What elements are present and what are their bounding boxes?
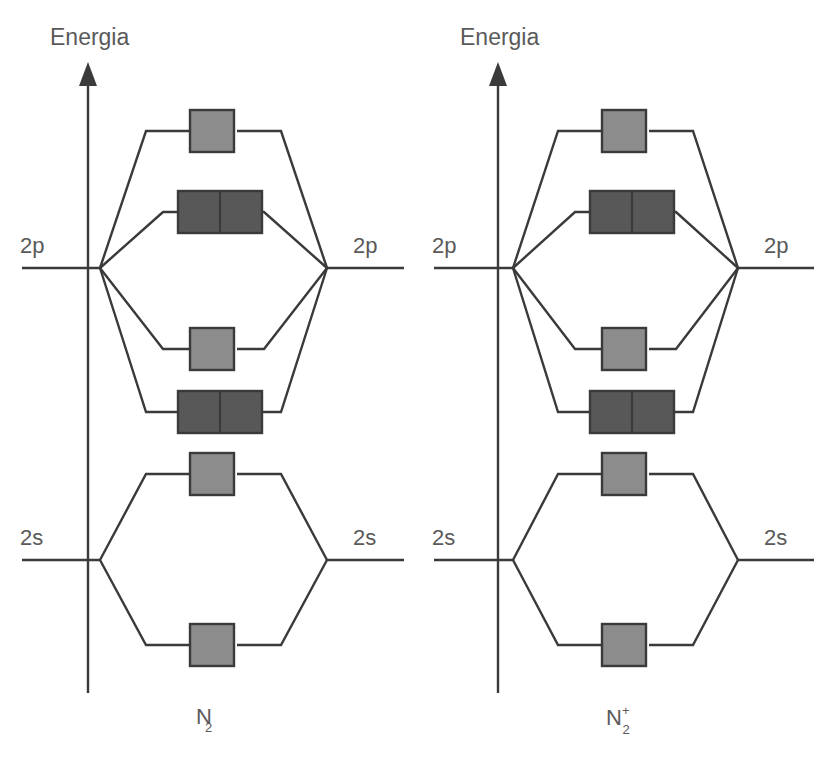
correlation-sigma2s-bond-right: [237, 560, 327, 645]
correlation-pi2p-anti-left: [513, 212, 593, 268]
orbital-box-sigma-2p-antibonding: [602, 110, 646, 152]
correlation-sigma2s-bond-left: [100, 560, 190, 645]
mo-panel-n2: Energia 2p 2p 2s 2s N2: [0, 0, 416, 774]
mo-panel-n2-cation: Energia 2p 2p 2s 2s N+2: [416, 0, 832, 774]
species-subscript: 2: [205, 720, 212, 735]
energy-axis-label: Energia: [460, 26, 539, 49]
species-label-n2: N2: [196, 706, 219, 731]
orbital-box-sigma-2p-bonding: [602, 328, 646, 370]
orbital-box-pi-2p-bonding: [590, 391, 674, 433]
correlation-sigma2s-anti-left: [100, 474, 190, 560]
mo-panel-n2-cation-graphics: [416, 0, 832, 774]
orbital-box-sigma-2s-antibonding: [190, 453, 234, 495]
correlation-pi2p-bond-left: [100, 268, 181, 412]
orbital-box-sigma-2s-bonding: [190, 624, 234, 666]
energy-axis-label: Energia: [50, 26, 129, 49]
orbital-box-sigma-2s-bonding: [602, 624, 646, 666]
atomic-level-label-2p-left: 2p: [432, 235, 456, 257]
correlation-pi2p-anti-left: [100, 212, 181, 268]
atomic-level-label-2s-right: 2s: [353, 527, 376, 549]
mo-diagram-figure: Energia 2p 2p 2s 2s N2: [0, 0, 833, 774]
orbital-box-sigma-2p-bonding: [190, 328, 234, 370]
atomic-level-label-2p-right: 2p: [764, 235, 788, 257]
energy-axis-arrow-icon: [79, 62, 97, 86]
atomic-level-label-2s-left: 2s: [432, 527, 455, 549]
orbital-box-pi-2p-antibonding: [178, 191, 262, 233]
orbital-box-sigma-2s-antibonding: [602, 453, 646, 495]
correlation-sigma2s-anti-left: [513, 474, 602, 560]
atomic-level-label-2s-right: 2s: [764, 527, 787, 549]
orbital-box-pi-2p-antibonding: [590, 191, 674, 233]
mo-panel-n2-graphics: [0, 0, 416, 774]
correlation-sigma2s-bond-left: [513, 560, 602, 645]
correlation-sigma2p-anti-left: [513, 131, 602, 268]
correlation-sigma2s-anti-right: [649, 474, 738, 560]
correlation-sigma2s-bond-right: [649, 560, 738, 645]
energy-axis-arrow-icon: [489, 62, 507, 86]
species-subscript: 2: [622, 722, 629, 737]
orbital-box-pi-2p-bonding: [178, 391, 262, 433]
species-label-n2-cation: N+2: [606, 706, 637, 733]
correlation-sigma2p-anti-left: [100, 131, 190, 268]
correlation-sigma2s-anti-right: [237, 474, 327, 560]
orbital-box-sigma-2p-antibonding: [190, 110, 234, 152]
correlation-pi2p-bond-left: [513, 268, 593, 412]
atomic-level-label-2p-right: 2p: [353, 235, 377, 257]
species-symbol: N: [606, 705, 622, 730]
species-superscript: +: [622, 703, 630, 718]
atomic-level-label-2p-left: 2p: [20, 235, 44, 257]
atomic-level-label-2s-left: 2s: [20, 527, 43, 549]
